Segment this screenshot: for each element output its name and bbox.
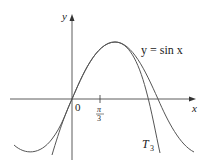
t3-subscript: 3	[150, 144, 154, 153]
sin-curve	[14, 42, 194, 152]
t3-label: T	[142, 137, 150, 151]
y-axis-label: y	[61, 10, 67, 22]
sin-label: y = sin x	[141, 43, 183, 57]
x-axis-label: x	[191, 102, 197, 114]
chart: y x 0 π 3 y = sin x T 3	[0, 0, 206, 167]
y-axis-arrow-icon	[70, 14, 75, 21]
origin-label: 0	[75, 101, 81, 113]
three-label: 3	[97, 114, 101, 123]
pi-label: π	[97, 105, 102, 114]
x-axis-arrow-icon	[189, 97, 196, 102]
